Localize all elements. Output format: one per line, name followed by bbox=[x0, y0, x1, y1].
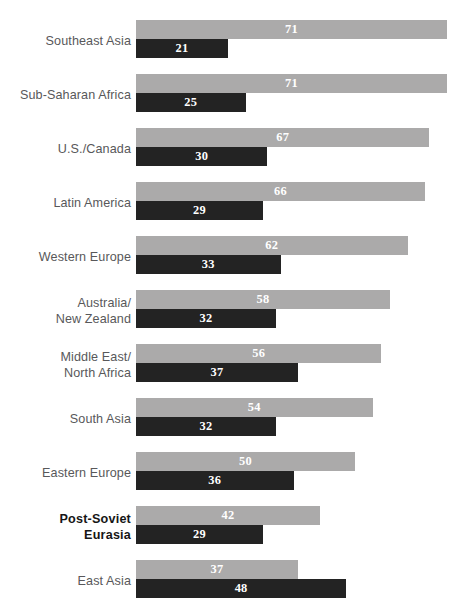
chart-rows: Southeast Asia7121Sub-Saharan Africa7125… bbox=[0, 14, 463, 608]
bar-series-a: 54 bbox=[136, 398, 373, 417]
bar-series-a: 62 bbox=[136, 236, 408, 255]
category-label: Sub-Saharan Africa bbox=[3, 68, 131, 122]
bar-group: 6233 bbox=[136, 236, 408, 274]
category-label: Middle East/ North Africa bbox=[3, 338, 131, 392]
bar-value-label: 37 bbox=[136, 363, 298, 382]
bar-value-label: 32 bbox=[136, 417, 276, 436]
bar-value-label: 48 bbox=[136, 579, 346, 598]
bar-series-b: 29 bbox=[136, 201, 263, 220]
bar-series-a: 66 bbox=[136, 182, 425, 201]
chart-row: Western Europe6233 bbox=[0, 230, 463, 284]
bar-group: 5036 bbox=[136, 452, 355, 490]
bar-group: 4229 bbox=[136, 506, 320, 544]
category-label: South Asia bbox=[3, 392, 131, 446]
bar-series-b: 21 bbox=[136, 39, 228, 58]
grouped-bar-chart: Southeast Asia7121Sub-Saharan Africa7125… bbox=[0, 0, 463, 608]
bar-series-b: 25 bbox=[136, 93, 246, 112]
bar-series-b: 32 bbox=[136, 417, 276, 436]
chart-row: Australia/ New Zealand5832 bbox=[0, 284, 463, 338]
category-label: Australia/ New Zealand bbox=[3, 284, 131, 338]
bar-series-b: 32 bbox=[136, 309, 276, 328]
bar-value-label: 71 bbox=[136, 74, 447, 93]
bar-group: 6629 bbox=[136, 182, 425, 220]
bar-group: 5432 bbox=[136, 398, 373, 436]
bar-value-label: 66 bbox=[136, 182, 425, 201]
bar-value-label: 21 bbox=[136, 39, 228, 58]
bar-group: 7121 bbox=[136, 20, 447, 58]
bar-series-a: 50 bbox=[136, 452, 355, 471]
category-label: Eastern Europe bbox=[3, 446, 131, 500]
bar-group: 5637 bbox=[136, 344, 381, 382]
bar-group: 5832 bbox=[136, 290, 390, 328]
bar-value-label: 25 bbox=[136, 93, 246, 112]
bar-value-label: 67 bbox=[136, 128, 429, 147]
bar-value-label: 58 bbox=[136, 290, 390, 309]
bar-series-b: 33 bbox=[136, 255, 281, 274]
bar-series-b: 48 bbox=[136, 579, 346, 598]
chart-row: East Asia3748 bbox=[0, 554, 463, 608]
category-label: Western Europe bbox=[3, 230, 131, 284]
bar-value-label: 42 bbox=[136, 506, 320, 525]
bar-value-label: 36 bbox=[136, 471, 294, 490]
bar-value-label: 33 bbox=[136, 255, 281, 274]
bar-value-label: 71 bbox=[136, 20, 447, 39]
bar-value-label: 50 bbox=[136, 452, 355, 471]
bar-group: 3748 bbox=[136, 560, 346, 598]
bar-value-label: 29 bbox=[136, 201, 263, 220]
bar-group: 6730 bbox=[136, 128, 429, 166]
bar-value-label: 30 bbox=[136, 147, 267, 166]
bar-series-a: 56 bbox=[136, 344, 381, 363]
bar-value-label: 62 bbox=[136, 236, 408, 255]
chart-row: Sub-Saharan Africa7125 bbox=[0, 68, 463, 122]
chart-row: Southeast Asia7121 bbox=[0, 14, 463, 68]
chart-row: U.S./Canada6730 bbox=[0, 122, 463, 176]
chart-row: South Asia5432 bbox=[0, 392, 463, 446]
category-label: Latin America bbox=[3, 176, 131, 230]
bar-series-a: 71 bbox=[136, 74, 447, 93]
bar-series-b: 37 bbox=[136, 363, 298, 382]
bar-series-a: 58 bbox=[136, 290, 390, 309]
bar-value-label: 37 bbox=[136, 560, 298, 579]
bar-series-b: 30 bbox=[136, 147, 267, 166]
bar-series-b: 29 bbox=[136, 525, 263, 544]
category-label: East Asia bbox=[3, 554, 131, 608]
chart-row: Latin America6629 bbox=[0, 176, 463, 230]
category-label: Southeast Asia bbox=[3, 14, 131, 68]
chart-row: Post-Soviet Eurasia4229 bbox=[0, 500, 463, 554]
bar-series-a: 37 bbox=[136, 560, 298, 579]
category-label: Post-Soviet Eurasia bbox=[3, 500, 131, 554]
chart-row: Middle East/ North Africa5637 bbox=[0, 338, 463, 392]
bar-value-label: 56 bbox=[136, 344, 381, 363]
bar-series-a: 67 bbox=[136, 128, 429, 147]
bar-value-label: 29 bbox=[136, 525, 263, 544]
bar-series-a: 71 bbox=[136, 20, 447, 39]
bar-series-a: 42 bbox=[136, 506, 320, 525]
chart-row: Eastern Europe5036 bbox=[0, 446, 463, 500]
bar-series-b: 36 bbox=[136, 471, 294, 490]
bar-group: 7125 bbox=[136, 74, 447, 112]
bar-value-label: 32 bbox=[136, 309, 276, 328]
category-label: U.S./Canada bbox=[3, 122, 131, 176]
bar-value-label: 54 bbox=[136, 398, 373, 417]
